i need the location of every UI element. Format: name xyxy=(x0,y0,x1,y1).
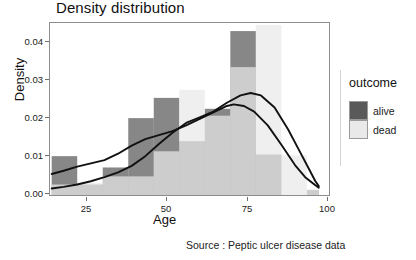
y-axis-label: Density xyxy=(12,43,27,117)
histogram-bar xyxy=(103,176,129,195)
x-tick-mark xyxy=(166,197,167,201)
chart-title: Density distribution xyxy=(56,0,185,16)
histogram-bar xyxy=(128,176,154,195)
x-tick-label: 100 xyxy=(311,203,343,214)
histogram-bar xyxy=(77,183,103,195)
histogram-bar xyxy=(179,90,205,195)
legend-item-alive[interactable]: alive xyxy=(349,101,415,120)
legend-swatch-dead xyxy=(349,120,368,139)
histogram-bar xyxy=(205,116,231,195)
y-tick-label: 0.04 xyxy=(25,36,44,47)
legend-label-alive: alive xyxy=(373,105,395,117)
histogram-bar xyxy=(154,151,180,195)
legend-label-dead: dead xyxy=(373,124,396,136)
y-tick-label: 0.02 xyxy=(25,112,44,123)
y-tick-label: 0.00 xyxy=(25,188,44,199)
histogram-bar xyxy=(256,25,282,195)
histogram-bar xyxy=(230,67,256,195)
y-tick-label: 0.03 xyxy=(25,74,44,85)
legend-swatch-alive xyxy=(349,101,368,120)
x-tick-label: 75 xyxy=(233,203,261,214)
y-axis-ticks: 0.04 0.03 0.02 0.01 0.00 xyxy=(0,0,43,260)
plot-panel xyxy=(49,22,330,196)
x-tick-label: 25 xyxy=(72,203,100,214)
y-tick-label: 0.01 xyxy=(25,150,44,161)
legend-item-dead[interactable]: dead xyxy=(349,120,415,139)
plot-canvas xyxy=(50,23,329,195)
x-tick-mark xyxy=(86,197,87,201)
legend-title: outcome xyxy=(349,76,397,90)
legend-divider xyxy=(340,70,341,166)
histogram-series-dead xyxy=(52,25,319,195)
x-axis-label: Age xyxy=(153,212,176,227)
x-tick-mark xyxy=(247,197,248,201)
chart-root: Density distribution 0.04 0.03 0.02 0.01… xyxy=(0,0,416,260)
histogram-bar xyxy=(307,189,319,195)
x-tick-mark xyxy=(327,197,328,201)
chart-caption: Source : Peptic ulcer disease data xyxy=(186,239,345,251)
